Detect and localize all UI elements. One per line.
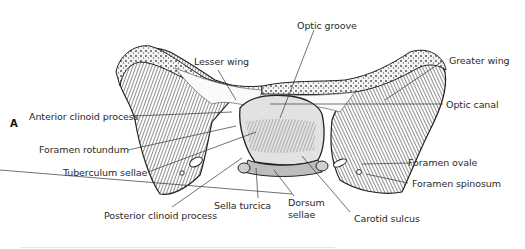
label-foramen-rotundum: Foramen rotundum: [39, 144, 129, 155]
label-dorsum-sellae-line2: sellae: [288, 209, 315, 220]
bone-illustration: [0, 0, 525, 249]
label-carotid-sulcus: Carotid sulcus: [354, 213, 420, 224]
label-foramen-ovale: Foramen ovale: [408, 157, 477, 168]
label-foramen-spinosum: Foramen spinosum: [412, 178, 501, 189]
label-dorsum-sellae-line1: Dorsum: [288, 197, 325, 208]
label-posterior-clinoid-process: Posterior clinoid process: [104, 210, 217, 221]
label-sella-turcica: Sella turcica: [214, 200, 271, 211]
sphenoid-diagram: A Optic groove Lesser wing Greater wing …: [0, 0, 525, 249]
bottom-divider: [20, 247, 335, 248]
panel-letter: A: [10, 118, 18, 129]
label-lesser-wing: Lesser wing: [194, 56, 249, 67]
label-anterior-clinoid-process: Anterior clinoid process: [29, 111, 139, 122]
tuberculum-area: [246, 119, 316, 153]
label-tuberculum-sellae: Tuberculum sellae: [63, 167, 147, 178]
label-greater-wing: Greater wing: [449, 55, 509, 66]
right-foramen-spinosum-shape: [357, 170, 362, 175]
label-optic-groove: Optic groove: [297, 20, 357, 31]
label-optic-canal: Optic canal: [446, 99, 499, 110]
